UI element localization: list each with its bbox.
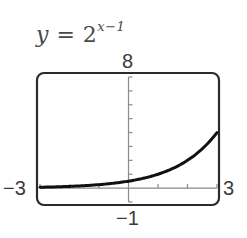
graph-screen: [0, 0, 247, 238]
axes: [40, 77, 217, 202]
